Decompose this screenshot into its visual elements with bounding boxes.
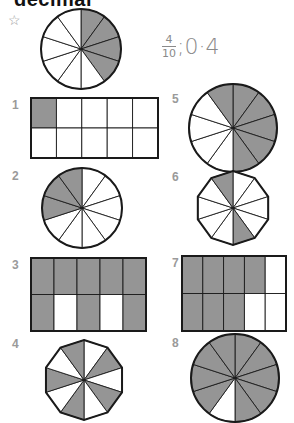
question-3-grid-cell: [123, 258, 146, 295]
question-7-grid-cell: [203, 294, 224, 332]
question-7-grid-cell: [224, 256, 245, 294]
question-3-grid-cell: [77, 258, 100, 295]
question-1-grid-cell: [107, 98, 132, 128]
question-1-grid-cell: [133, 98, 158, 128]
question-1-grid-cell: [107, 128, 132, 158]
question-3-grid-cell: [54, 295, 77, 332]
question-1-grid-cell: [31, 128, 56, 158]
question-7-grid-cell: [244, 256, 265, 294]
question-7-grid-cell: [265, 294, 286, 332]
question-3-grid-cell: [31, 258, 54, 295]
question-3-grid-cell: [77, 295, 100, 332]
question-1-grid-cell: [56, 98, 81, 128]
question-3-grid-cell: [100, 258, 123, 295]
question-1-grid-cell: [31, 98, 56, 128]
question-7-grid-cell: [224, 294, 245, 332]
question-7-grid-cell: [182, 256, 203, 294]
question-1-grid-cell: [82, 98, 107, 128]
fraction-shapes: [0, 0, 294, 423]
question-1-grid-cell: [82, 128, 107, 158]
question-7-grid-cell: [244, 294, 265, 332]
question-7-grid-cell: [182, 294, 203, 332]
question-1-grid-cell: [56, 128, 81, 158]
question-3-grid-cell: [31, 295, 54, 332]
question-3-grid-cell: [54, 258, 77, 295]
question-3-grid-cell: [100, 295, 123, 332]
question-3-grid-cell: [123, 295, 146, 332]
question-7-grid-cell: [203, 256, 224, 294]
question-1-grid-cell: [133, 128, 158, 158]
question-7-grid-cell: [265, 256, 286, 294]
